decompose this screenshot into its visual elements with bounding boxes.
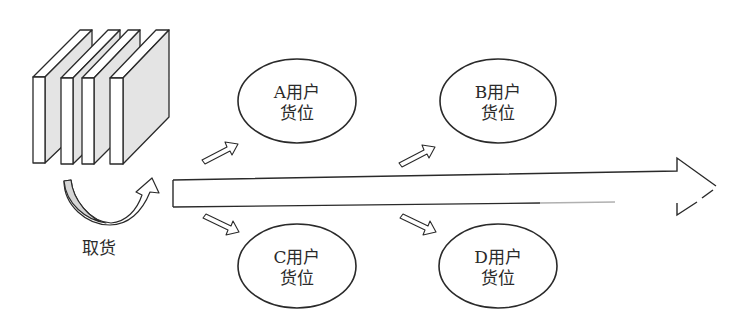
node-a-user-slot: A用户 货位: [238, 59, 356, 143]
node-b-line1: B用户: [475, 82, 522, 102]
book-stack-icon: [33, 30, 169, 164]
node-d-line1: D用户: [474, 247, 522, 267]
pickup-curved-arrow-icon: [64, 178, 159, 225]
arrow-to-a-icon: [202, 142, 238, 164]
node-b-user-slot: B用户 货位: [440, 59, 556, 143]
node-a-line1: A用户: [273, 82, 320, 102]
arrow-to-d-icon: [400, 214, 436, 235]
pickup-label: 取货: [82, 238, 116, 258]
node-b-line2: 货位: [481, 103, 515, 123]
node-c-line2: 货位: [280, 268, 314, 288]
node-d-user-slot: D用户 货位: [439, 224, 557, 308]
node-d-line2: 货位: [481, 268, 515, 288]
node-c-line1: C用户: [273, 247, 320, 267]
node-a-line2: 货位: [280, 103, 314, 123]
main-flow-arrow-icon: [173, 158, 716, 215]
picking-flow-diagram: 取货 A用户 货位 B用户 货位 C用户 货位 D用户: [0, 0, 738, 335]
node-c-user-slot: C用户 货位: [238, 224, 356, 308]
arrow-to-c-icon: [203, 214, 239, 235]
arrow-to-b-icon: [399, 145, 435, 167]
